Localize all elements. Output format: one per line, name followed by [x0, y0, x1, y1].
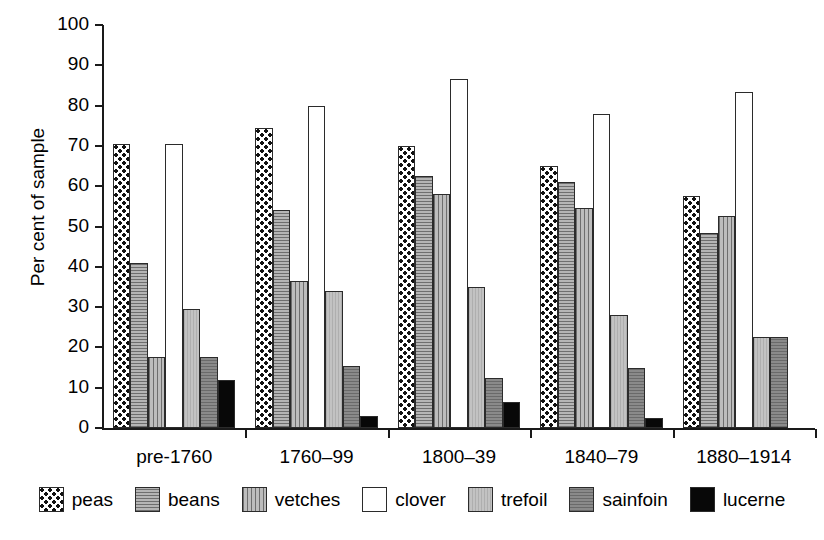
- bar-clover-18801914: [735, 92, 753, 429]
- y-tick-mark: [95, 226, 103, 228]
- legend-label: sainfoin: [602, 489, 668, 511]
- legend-swatch-lucerne-icon: [690, 487, 715, 512]
- y-tick-mark: [95, 266, 103, 268]
- y-tick-label: 10: [29, 377, 89, 396]
- legend-label: vetches: [275, 489, 340, 511]
- bar-lucerne-184079: [645, 418, 663, 428]
- legend-swatch-beans-icon: [135, 487, 160, 512]
- x-tick-label: pre-1760: [103, 446, 245, 468]
- x-tick-mark: [673, 429, 675, 438]
- y-tick-label: 50: [29, 216, 89, 235]
- legend-label: trefoil: [501, 489, 547, 511]
- plot-area: 0102030405060708090100 pre-17601760–9918…: [103, 25, 815, 428]
- y-tick-mark: [95, 427, 103, 429]
- y-tick-label: 90: [29, 54, 89, 73]
- x-tick-mark: [388, 429, 390, 438]
- y-tick-mark: [95, 387, 103, 389]
- legend-item-peas[interactable]: peas: [39, 487, 113, 512]
- y-tick-label: 80: [29, 95, 89, 114]
- bar-lucerne-pre1760: [218, 380, 236, 428]
- legend-item-beans[interactable]: beans: [135, 487, 220, 512]
- bar-vetches-176099: [290, 281, 308, 428]
- bar-trefoil-18801914: [753, 337, 771, 428]
- legend-item-vetches[interactable]: vetches: [242, 487, 340, 512]
- y-tick-mark: [95, 24, 103, 26]
- legend-swatch-vetches-icon: [242, 487, 267, 512]
- bar-beans-176099: [273, 210, 291, 428]
- bar-peas-18801914: [683, 196, 701, 428]
- legend-item-trefoil[interactable]: trefoil: [468, 487, 547, 512]
- y-tick-label: 60: [29, 175, 89, 194]
- y-tick-mark: [95, 64, 103, 66]
- bar-trefoil-184079: [610, 315, 628, 428]
- chart-legend: peasbeansvetchesclovertrefoilsainfoinluc…: [0, 487, 824, 512]
- y-tick-label: 100: [29, 14, 89, 33]
- bar-lucerne-180039: [503, 402, 521, 428]
- bar-lucerne-176099: [360, 416, 378, 428]
- legend-swatch-sainfoin-icon: [569, 487, 594, 512]
- bar-beans-pre1760: [130, 263, 148, 428]
- legend-label: beans: [168, 489, 220, 511]
- legend-item-lucerne[interactable]: lucerne: [690, 487, 785, 512]
- bar-beans-180039: [415, 176, 433, 428]
- x-tick-mark: [530, 429, 532, 438]
- legend-swatch-clover-icon: [362, 487, 387, 512]
- bar-trefoil-pre1760: [183, 309, 201, 428]
- bar-chart-figure: Per cent of sample 010203040506070809010…: [0, 0, 824, 540]
- x-tick-label: 1840–79: [530, 446, 672, 468]
- y-tick-label: 20: [29, 336, 89, 355]
- x-axis-line: [102, 428, 815, 430]
- bar-peas-pre1760: [113, 144, 131, 428]
- legend-item-sainfoin[interactable]: sainfoin: [569, 487, 668, 512]
- bar-vetches-18801914: [718, 216, 736, 428]
- y-tick-mark: [95, 105, 103, 107]
- legend-swatch-peas-icon: [39, 487, 64, 512]
- x-tick-label: 1880–1914: [673, 446, 815, 468]
- bar-sainfoin-180039: [485, 378, 503, 428]
- legend-label: peas: [72, 489, 113, 511]
- x-tick-label: 1800–39: [388, 446, 530, 468]
- y-tick-mark: [95, 306, 103, 308]
- bar-clover-176099: [308, 106, 326, 428]
- bar-sainfoin-18801914: [770, 337, 788, 428]
- bar-beans-184079: [558, 182, 576, 428]
- legend-swatch-trefoil-icon: [468, 487, 493, 512]
- x-tick-label: 1760–99: [245, 446, 387, 468]
- bar-peas-184079: [540, 166, 558, 428]
- bar-vetches-pre1760: [148, 357, 166, 428]
- bar-sainfoin-184079: [628, 368, 646, 428]
- legend-label: lucerne: [723, 489, 785, 511]
- bar-vetches-180039: [433, 194, 451, 428]
- bar-peas-176099: [255, 128, 273, 428]
- bar-sainfoin-176099: [343, 366, 361, 428]
- y-tick-label: 30: [29, 296, 89, 315]
- legend-label: clover: [395, 489, 446, 511]
- bar-clover-180039: [450, 79, 468, 428]
- y-tick-mark: [95, 185, 103, 187]
- bar-trefoil-176099: [325, 291, 343, 428]
- bar-clover-184079: [593, 114, 611, 428]
- bar-clover-pre1760: [165, 144, 183, 428]
- x-tick-mark: [815, 429, 817, 438]
- y-tick-label: 70: [29, 135, 89, 154]
- y-tick-label: 40: [29, 256, 89, 275]
- y-tick-mark: [95, 145, 103, 147]
- bar-vetches-184079: [575, 208, 593, 428]
- y-tick-mark: [95, 346, 103, 348]
- bar-peas-180039: [398, 146, 416, 428]
- bar-sainfoin-pre1760: [200, 357, 218, 428]
- x-tick-mark: [245, 429, 247, 438]
- y-tick-label: 0: [29, 417, 89, 436]
- legend-item-clover[interactable]: clover: [362, 487, 446, 512]
- bar-beans-18801914: [700, 233, 718, 428]
- bar-trefoil-180039: [468, 287, 486, 428]
